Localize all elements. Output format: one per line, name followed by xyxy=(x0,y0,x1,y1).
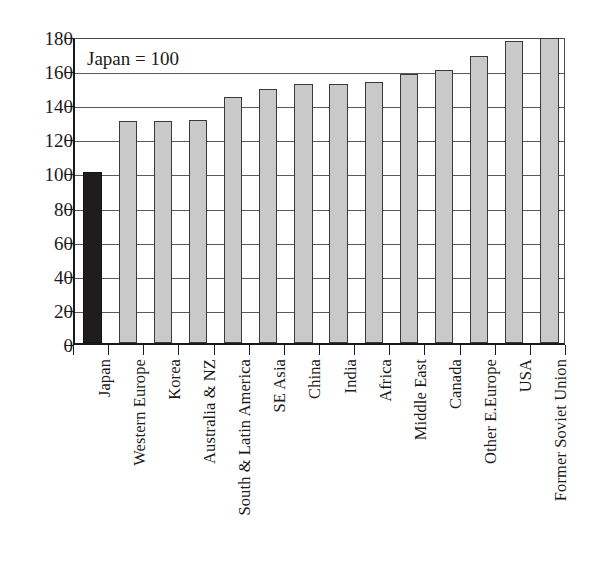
gridline xyxy=(75,107,564,108)
y-axis: 020406080100120140160180 xyxy=(0,0,73,586)
bar-canada xyxy=(435,70,453,343)
x-axis: JapanWestern EuropeKoreaAustralia & NZSo… xyxy=(73,345,565,586)
x-tick-mark xyxy=(319,345,320,355)
x-tick-mark xyxy=(178,345,179,355)
x-tick-mark xyxy=(108,345,109,355)
y-tick-label: 100 xyxy=(11,165,73,184)
x-category-label: Africa xyxy=(378,359,395,402)
bar-south-latin-america xyxy=(224,97,242,343)
x-tick-mark xyxy=(565,345,566,355)
y-tick-label: 40 xyxy=(11,267,73,286)
y-tick-label: 20 xyxy=(11,301,73,320)
y-tick-label: 0 xyxy=(11,336,73,355)
x-category-label: Australia & NZ xyxy=(202,359,219,464)
x-tick-mark xyxy=(460,345,461,355)
gridline xyxy=(75,312,564,313)
gridline xyxy=(75,73,564,74)
bar-other-e-europe xyxy=(470,56,488,343)
x-category-label: Canada xyxy=(448,359,465,409)
bar-middle-east xyxy=(400,74,418,343)
plot-area: Japan = 100 xyxy=(73,38,565,345)
bar-se-asia xyxy=(259,89,277,343)
y-tick-label: 180 xyxy=(11,29,73,48)
x-tick-mark xyxy=(495,345,496,355)
bar-china xyxy=(294,84,312,343)
gridline xyxy=(75,210,564,211)
bar-australia-nz xyxy=(189,120,207,343)
gridline xyxy=(75,141,564,142)
x-category-label: South & Latin America xyxy=(237,359,254,516)
x-tick-mark xyxy=(389,345,390,355)
x-tick-mark xyxy=(143,345,144,355)
y-tick-label: 80 xyxy=(11,199,73,218)
x-tick-mark xyxy=(214,345,215,355)
bar-korea xyxy=(154,121,172,343)
bar-japan xyxy=(83,172,101,343)
bar-africa xyxy=(365,82,383,343)
bar-india xyxy=(329,84,347,343)
x-category-label: Japan xyxy=(97,359,114,397)
x-tick-mark xyxy=(530,345,531,355)
x-tick-mark xyxy=(73,345,74,355)
x-tick-mark xyxy=(424,345,425,355)
x-category-label: Western Europe xyxy=(132,359,149,466)
x-tick-mark xyxy=(284,345,285,355)
x-category-label: USA xyxy=(518,359,535,392)
x-category-label: Former Soviet Union xyxy=(553,359,570,501)
bar-chart: 020406080100120140160180 Japan = 100 Jap… xyxy=(0,0,591,586)
bar-usa xyxy=(505,41,523,343)
x-category-label: Other E.Europe xyxy=(483,359,500,464)
gridline xyxy=(75,244,564,245)
x-category-label: Korea xyxy=(167,359,184,400)
x-category-label: SE Asia xyxy=(272,359,289,412)
bar-former-soviet-union xyxy=(540,38,558,343)
x-tick-mark xyxy=(249,345,250,355)
x-category-label: China xyxy=(307,359,324,399)
bar-western-europe xyxy=(119,121,137,343)
y-tick-label: 60 xyxy=(11,233,73,252)
x-tick-mark xyxy=(354,345,355,355)
chart-annotation: Japan = 100 xyxy=(87,49,179,68)
gridline xyxy=(75,278,564,279)
gridline xyxy=(75,175,564,176)
y-tick-label: 140 xyxy=(11,97,73,116)
y-tick-label: 120 xyxy=(11,131,73,150)
y-tick-label: 160 xyxy=(11,63,73,82)
x-category-label: Middle East xyxy=(413,359,430,440)
x-category-label: India xyxy=(343,359,360,393)
